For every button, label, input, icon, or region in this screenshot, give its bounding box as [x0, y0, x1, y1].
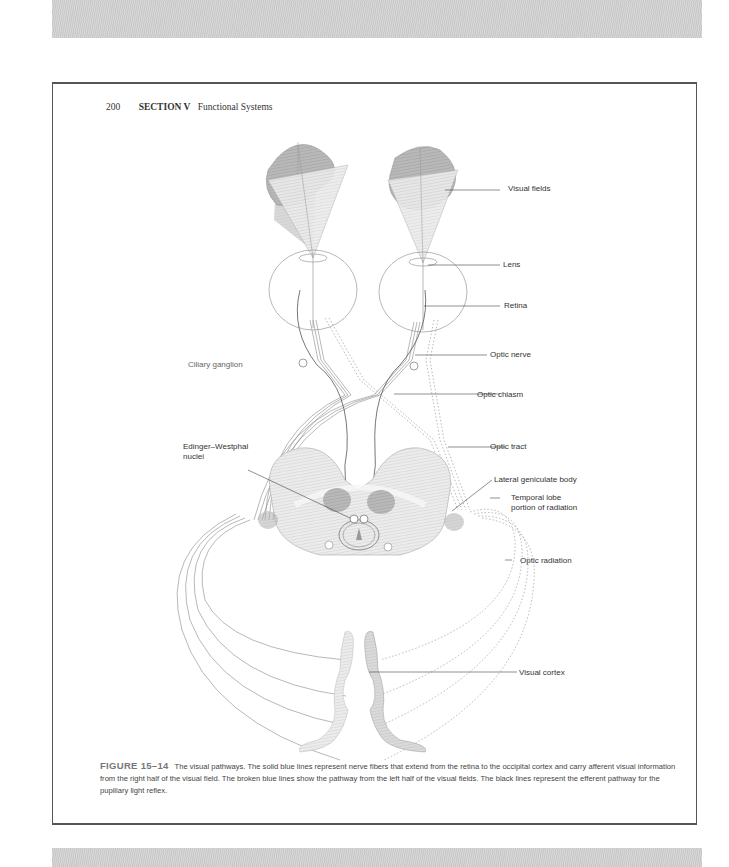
right-eye — [379, 252, 467, 332]
label-lateral-geniculate-body: Lateral geniculate body — [494, 475, 577, 485]
leader-lines — [248, 190, 517, 672]
caption-text: The visual pathways. The solid blue line… — [100, 762, 675, 795]
visual-pathway-diagram — [0, 0, 729, 867]
label-optic-chiasm: Optic chiasm — [477, 390, 523, 400]
visual-cortex-shapes — [299, 631, 426, 752]
label-temporal-lobe: Temporal lobe portion of radiation — [511, 493, 577, 513]
label-edinger-westphal-line2: nuclei — [183, 452, 248, 462]
label-optic-tract: Optic tract — [490, 442, 526, 452]
left-eye — [269, 250, 357, 330]
label-visual-fields: Visual fields — [508, 184, 551, 194]
label-edinger-westphal: Edinger–Westphal nuclei — [183, 442, 248, 462]
label-temporal-lobe-line2: portion of radiation — [511, 503, 577, 513]
left-visual-field — [266, 142, 348, 258]
label-temporal-lobe-line1: Temporal lobe — [511, 493, 577, 503]
figure-number: FIGURE 15–14 — [100, 760, 169, 771]
label-ciliary-ganglion: Ciliary ganglion — [188, 360, 243, 370]
label-edinger-westphal-line1: Edinger–Westphal — [183, 442, 248, 452]
figure-caption: FIGURE 15–14The visual pathways. The sol… — [100, 760, 682, 797]
label-lens: Lens — [503, 260, 520, 270]
label-visual-cortex: Visual cortex — [519, 668, 565, 678]
label-optic-radiation: Optic radiation — [520, 556, 572, 566]
label-optic-nerve: Optic nerve — [490, 350, 531, 360]
midbrain-section — [258, 448, 464, 555]
bottom-background-band — [52, 848, 702, 867]
right-visual-field — [388, 146, 458, 263]
label-retina: Retina — [504, 301, 527, 311]
